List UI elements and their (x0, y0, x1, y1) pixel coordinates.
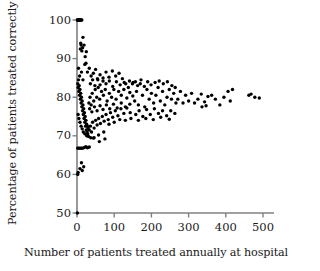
data-point (174, 101, 177, 104)
data-point (80, 96, 83, 99)
data-point (81, 46, 84, 49)
data-point (190, 92, 193, 95)
data-point (91, 121, 94, 124)
data-points-group (76, 18, 261, 214)
data-point (114, 97, 117, 100)
data-point (95, 123, 98, 126)
data-point (253, 96, 256, 99)
data-point (168, 88, 171, 91)
data-point (135, 90, 138, 93)
data-point (101, 79, 104, 82)
data-point (93, 84, 96, 87)
data-point (89, 103, 92, 106)
data-point (173, 112, 176, 115)
data-point (111, 116, 114, 119)
y-tick-label: 90 (45, 51, 71, 65)
data-point (98, 104, 101, 107)
data-point (103, 137, 106, 140)
data-point (110, 96, 113, 99)
data-point (163, 103, 166, 106)
x-tick-label: 400 (211, 220, 241, 234)
data-point (92, 99, 95, 102)
data-point (118, 83, 121, 86)
data-point (101, 108, 104, 111)
data-point (229, 99, 232, 102)
data-point (122, 112, 125, 115)
y-tick-label: 60 (45, 167, 71, 181)
data-point (84, 119, 87, 122)
data-point (124, 119, 127, 122)
data-point (122, 88, 125, 91)
data-point (80, 161, 83, 164)
data-point (162, 82, 165, 85)
data-point (88, 67, 91, 70)
data-point (102, 94, 105, 97)
data-point (77, 78, 80, 81)
data-point (92, 72, 95, 75)
data-point (92, 126, 95, 129)
data-point (105, 99, 108, 102)
data-point (98, 140, 101, 143)
data-point (90, 130, 93, 133)
data-point (152, 118, 155, 121)
data-point (81, 103, 84, 106)
data-point (80, 49, 83, 52)
data-point (144, 117, 147, 120)
data-point (115, 80, 118, 83)
data-point (84, 62, 87, 65)
y-tick-label: 80 (45, 90, 71, 104)
data-point (226, 90, 229, 93)
data-point (147, 97, 150, 100)
data-point (108, 107, 111, 110)
data-point (145, 88, 148, 91)
data-point (124, 105, 127, 108)
data-point (94, 88, 97, 91)
data-point (161, 90, 164, 93)
data-point (80, 70, 83, 73)
data-point (111, 69, 114, 72)
data-point (200, 92, 203, 95)
data-point (184, 94, 187, 97)
data-point (150, 92, 153, 95)
data-point (170, 84, 173, 87)
data-point (81, 99, 84, 102)
data-point (88, 145, 91, 148)
data-point (78, 84, 81, 87)
data-point (156, 86, 159, 89)
data-point (145, 108, 148, 111)
data-point (154, 94, 157, 97)
data-point (76, 211, 79, 214)
data-point (161, 109, 164, 112)
data-point (98, 83, 101, 86)
data-point (128, 79, 131, 82)
data-point (83, 115, 86, 118)
data-point (218, 103, 221, 106)
data-point (128, 91, 131, 94)
data-point (120, 94, 123, 97)
data-point (109, 111, 112, 114)
data-point (137, 109, 140, 112)
data-point (231, 88, 234, 91)
data-point (187, 99, 190, 102)
data-point (196, 97, 199, 100)
data-point (117, 72, 120, 75)
data-point (210, 94, 213, 97)
data-point (200, 105, 203, 108)
data-point (104, 70, 107, 73)
x-tick-label: 300 (174, 220, 204, 234)
y-tick-label: 70 (45, 128, 71, 142)
data-point (153, 107, 156, 110)
x-tick-label: 0 (62, 220, 92, 234)
data-point (115, 106, 118, 109)
data-point (81, 36, 84, 39)
data-point (166, 80, 169, 83)
data-point (108, 92, 111, 95)
data-point (107, 118, 110, 121)
data-point (107, 123, 110, 126)
y-tick-label: 100 (45, 13, 71, 27)
data-point (90, 110, 93, 113)
data-point (174, 86, 177, 89)
data-point (127, 86, 130, 89)
data-point (88, 107, 91, 110)
data-point (170, 97, 173, 100)
